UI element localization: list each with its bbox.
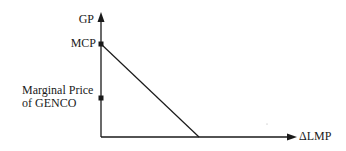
mcp-label: MCP	[71, 37, 96, 50]
y-axis-label: GP	[79, 13, 94, 26]
profit-line	[101, 44, 199, 137]
y-axis-arrow-icon	[98, 12, 105, 22]
x-axis-label: ΔLMP	[299, 130, 331, 143]
marginal-price-marker	[99, 96, 104, 101]
diagram-canvas	[0, 0, 346, 151]
marginal-price-label: Marginal Price of GENCO	[22, 84, 93, 110]
mcp-marker	[99, 42, 104, 47]
marginal-price-label-line2: of GENCO	[22, 97, 93, 110]
x-axis-arrow-icon	[287, 134, 297, 141]
speck	[267, 124, 268, 125]
